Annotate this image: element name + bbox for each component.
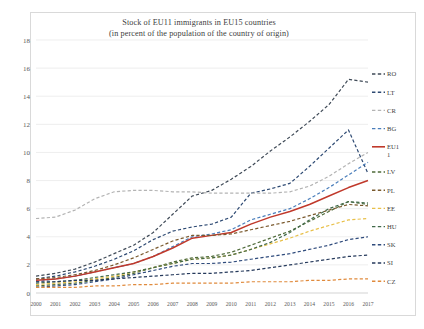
- x-tick-label: 2013: [284, 301, 295, 307]
- y-tick-label: 8: [27, 177, 31, 185]
- y-axis-ticks: 024681012141618: [23, 37, 31, 298]
- legend-label-RO[interactable]: RO: [387, 70, 396, 77]
- y-tick-label: 16: [23, 65, 31, 73]
- x-tick-label: 2007: [167, 301, 178, 307]
- legend-label-EU11[interactable]: EU1: [387, 143, 399, 150]
- x-axis-ticks: 2000200120022003200420052006200720082009…: [30, 301, 373, 307]
- series-line-RO: [36, 79, 368, 276]
- legend-label-CR[interactable]: CR: [387, 107, 396, 114]
- y-tick-label: 0: [27, 290, 31, 298]
- x-tick-label: 2015: [323, 301, 334, 307]
- x-tick-label: 2000: [30, 301, 41, 307]
- x-tick-label: 2004: [109, 301, 120, 307]
- series-line-HU: [36, 202, 368, 284]
- chart-figure: Stock of EU11 immigrants in EU15 countri…: [0, 0, 424, 329]
- legend-label-EE[interactable]: EE: [387, 205, 395, 212]
- legend-label-EU11-cont[interactable]: 1: [387, 151, 390, 158]
- series-line-PL: [36, 204, 368, 278]
- legend-label-BG[interactable]: BG: [387, 125, 396, 132]
- chart-legend: ROLTCRBGEU11LVPLEEHUSKSICZ: [372, 70, 399, 284]
- legend-label-CZ[interactable]: CZ: [387, 278, 395, 285]
- legend-label-SI[interactable]: SI: [387, 259, 393, 266]
- x-tick-label: 2009: [206, 301, 217, 307]
- legend-label-LT[interactable]: LT: [387, 89, 394, 96]
- x-tick-label: 2003: [89, 301, 100, 307]
- y-tick-label: 6: [27, 205, 31, 213]
- x-tick-label: 2008: [187, 301, 198, 307]
- series-line-EE: [36, 219, 368, 285]
- x-tick-label: 2011: [245, 301, 256, 307]
- y-tick-label: 18: [23, 37, 31, 45]
- series-lines: [36, 79, 368, 287]
- y-tick-label: 10: [23, 149, 31, 157]
- y-tick-label: 4: [27, 233, 31, 241]
- x-tick-label: 2016: [343, 301, 354, 307]
- y-tick-label: 2: [27, 261, 31, 269]
- gridlines: [36, 40, 368, 293]
- x-tick-label: 2017: [362, 301, 373, 307]
- y-tick-label: 14: [23, 93, 31, 101]
- legend-label-HU[interactable]: HU: [387, 223, 397, 230]
- legend-label-LV[interactable]: LV: [387, 168, 395, 175]
- x-tick-label: 2001: [50, 301, 61, 307]
- x-tick-label: 2005: [128, 301, 139, 307]
- x-tick-label: 2002: [69, 301, 80, 307]
- legend-label-SK[interactable]: SK: [387, 241, 396, 248]
- legend-label-PL[interactable]: PL: [387, 187, 395, 194]
- x-tick-label: 2006: [148, 301, 159, 307]
- x-tick-label: 2010: [226, 301, 237, 307]
- x-tick-label: 2012: [265, 301, 276, 307]
- chart-plot: 024681012141618 200020012002200320042005…: [0, 0, 424, 329]
- x-tick-label: 2014: [304, 301, 315, 307]
- y-tick-label: 12: [23, 121, 31, 129]
